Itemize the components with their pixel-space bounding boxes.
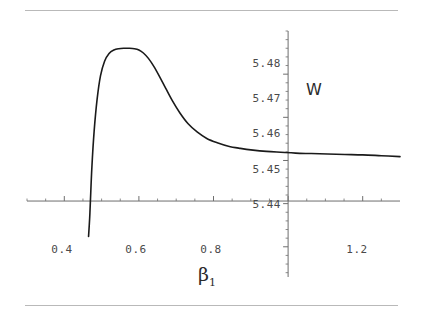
data-curve (89, 48, 400, 236)
x-tick-label-1: 0.6 (125, 243, 146, 256)
x-axis-label-subscript: 1 (209, 276, 216, 289)
x-tick-label-4: 1.2 (346, 243, 367, 256)
x-axis-label: β1 (198, 263, 216, 289)
y-axis-label: W (306, 80, 322, 99)
x-tick-label-2: 0.8 (200, 243, 221, 256)
y-tick-label-2: 5.46 (249, 127, 281, 140)
x-tick-label-0: 0.4 (51, 243, 72, 256)
x-axis-label-symbol: β (198, 263, 209, 285)
y-tick-label-0: 5.44 (249, 198, 281, 211)
x-tick-marks (27, 196, 381, 201)
y-tick-label-4: 5.48 (249, 57, 281, 70)
y-tick-label-3: 5.47 (249, 92, 281, 105)
figure-page: 0.4 0.6 0.8 1.2 5.44 5.45 5.46 5.47 5.48… (0, 0, 422, 318)
y-tick-label-1: 5.45 (249, 163, 281, 176)
